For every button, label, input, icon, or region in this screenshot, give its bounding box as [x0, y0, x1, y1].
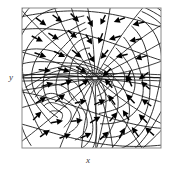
arrow-shaft [51, 122, 57, 123]
arrow-shaft [135, 39, 141, 40]
arrow-shaft [71, 121, 77, 122]
plot-canvas [0, 0, 179, 175]
y-axis-label: y [9, 73, 13, 82]
arrow-shaft [39, 70, 45, 71]
x-axis-label: x [86, 156, 90, 165]
vector-field-figure: y x [0, 0, 179, 175]
